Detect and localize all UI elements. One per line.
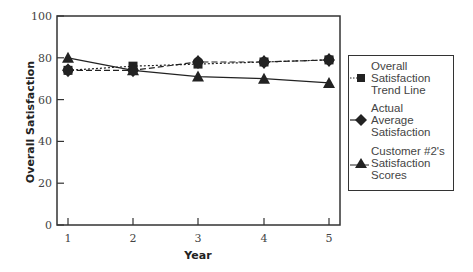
x-tick-label: 2 xyxy=(130,232,137,245)
legend-label-trend-line: Overall Satisfaction Trend Line xyxy=(371,60,430,96)
triangle-marker-icon xyxy=(349,156,371,170)
y-tick-label: 80 xyxy=(38,52,52,65)
x-axis-title: Year xyxy=(183,249,212,262)
diamond-marker-icon xyxy=(258,55,270,69)
square-marker-icon xyxy=(349,71,371,85)
y-tick-label: 0 xyxy=(45,219,52,232)
legend: Overall Satisfaction Trend Line Actual A… xyxy=(348,55,454,191)
y-axis-title: Overall Satisfaction xyxy=(24,61,37,183)
x-axis-ticks: 12345 xyxy=(65,218,333,245)
diamond-marker-icon xyxy=(323,53,335,67)
diamond-marker-icon xyxy=(62,63,74,77)
plot-frame xyxy=(57,16,340,225)
legend-item-customer-2: Customer #2's Satisfaction Scores xyxy=(349,145,453,181)
x-tick-label: 5 xyxy=(326,232,333,245)
y-tick-label: 40 xyxy=(38,135,52,148)
y-tick-label: 100 xyxy=(31,10,52,23)
legend-item-actual-average: Actual Average Satisfaction xyxy=(349,102,453,138)
legend-label-actual-average: Actual Average Satisfaction xyxy=(371,102,430,138)
y-tick-label: 60 xyxy=(38,94,52,107)
legend-label-customer-2: Customer #2's Satisfaction Scores xyxy=(371,145,445,181)
x-tick-label: 4 xyxy=(261,232,268,245)
series-layer xyxy=(62,52,335,88)
x-tick-label: 1 xyxy=(65,232,72,245)
y-tick-label: 20 xyxy=(38,177,52,190)
x-tick-label: 3 xyxy=(195,232,202,245)
diamond-marker-icon xyxy=(349,113,371,127)
legend-item-trend-line: Overall Satisfaction Trend Line xyxy=(349,60,453,96)
